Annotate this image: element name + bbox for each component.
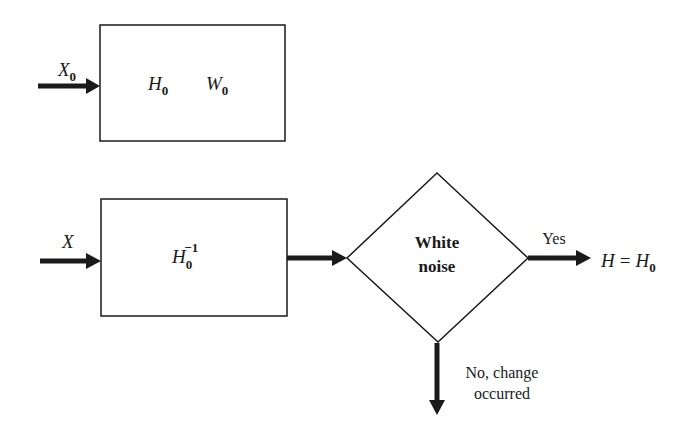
inverse-filter-block (101, 199, 287, 316)
inverse-filter-label: H0−1 (171, 240, 198, 272)
no-label-line1: No, change (466, 364, 539, 382)
model-h0-label: H0 (147, 73, 168, 98)
no-label-line2: occurred (474, 385, 530, 402)
diagram-canvas: X0 H0 W0 X H0−1 White noise Yes H=H0 No,… (0, 0, 695, 445)
decision-label-line2: noise (419, 257, 456, 276)
filter-input-arrow (40, 253, 101, 269)
decision-label-line1: White (415, 233, 460, 252)
yes-arrow (528, 250, 591, 266)
yes-result-label: H=H0 (600, 250, 656, 275)
no-arrow (429, 343, 445, 415)
yes-label: Yes (542, 230, 565, 247)
filter-to-decision-arrow (287, 250, 347, 266)
model-input-label: X0 (57, 59, 76, 84)
model-w0-label: W0 (206, 73, 228, 98)
model-block (100, 25, 285, 141)
filter-input-label: X (61, 231, 75, 252)
